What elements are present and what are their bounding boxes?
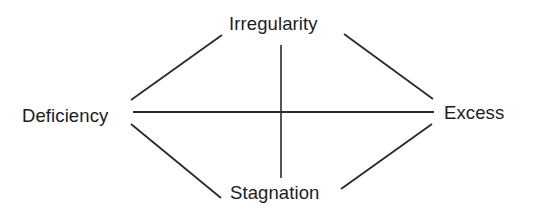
diagram-canvas: Irregularity Deficiency Excess Stagnatio…	[0, 0, 542, 216]
edge-stagnation-excess	[341, 124, 432, 189]
edge-irregularity-excess	[344, 34, 433, 99]
node-stagnation: Stagnation	[230, 184, 319, 203]
node-deficiency: Deficiency	[22, 107, 108, 126]
edge-deficiency-stagnation	[131, 124, 221, 198]
edge-deficiency-irregularity	[131, 35, 222, 100]
node-irregularity: Irregularity	[229, 15, 318, 34]
node-excess: Excess	[444, 104, 504, 123]
